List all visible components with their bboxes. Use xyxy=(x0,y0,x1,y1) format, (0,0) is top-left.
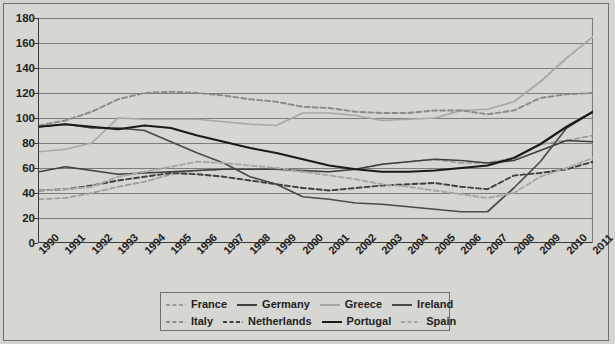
chart-legend: FranceGermanyGreeceIreland ItalyNetherla… xyxy=(160,292,450,331)
series-line-portugal xyxy=(39,112,593,172)
legend-swatch-france-icon xyxy=(165,300,187,309)
legend-swatch-germany-icon xyxy=(236,300,258,309)
legend-label-portugal: Portugal xyxy=(347,316,392,327)
legend-item-spain: Spain xyxy=(400,316,456,327)
legend-swatch-spain-icon xyxy=(400,317,422,326)
legend-swatch-netherlands-icon xyxy=(222,317,244,326)
legend-row-2: ItalyNetherlandsPortugalSpain xyxy=(165,313,445,330)
legend-label-netherlands: Netherlands xyxy=(248,316,312,327)
legend-label-italy: Italy xyxy=(191,316,213,327)
legend-swatch-italy-icon xyxy=(165,317,187,326)
legend-item-netherlands: Netherlands xyxy=(222,316,312,327)
legend-item-greece: Greece xyxy=(319,299,382,310)
legend-item-germany: Germany xyxy=(236,299,310,310)
legend-item-france: France xyxy=(165,299,227,310)
y-axis-labels: 020406080100120140160180 xyxy=(0,0,38,250)
series-line-germany xyxy=(39,141,593,175)
legend-label-germany: Germany xyxy=(262,299,310,310)
legend-item-portugal: Portugal xyxy=(321,316,392,327)
legend-label-greece: Greece xyxy=(345,299,382,310)
legend-item-italy: Italy xyxy=(165,316,213,327)
legend-swatch-ireland-icon xyxy=(391,300,413,309)
plot-area xyxy=(38,18,592,243)
legend-label-spain: Spain xyxy=(426,316,456,327)
legend-row-1: FranceGermanyGreeceIreland xyxy=(165,296,445,313)
series-line-italy xyxy=(39,92,593,126)
y-tick-mark-0 xyxy=(33,243,38,244)
legend-swatch-portugal-icon xyxy=(321,317,343,326)
chart-lines xyxy=(39,18,593,243)
legend-label-ireland: Ireland xyxy=(417,299,453,310)
legend-swatch-greece-icon xyxy=(319,300,341,309)
series-line-greece xyxy=(39,37,593,152)
legend-label-france: France xyxy=(191,299,227,310)
legend-item-ireland: Ireland xyxy=(391,299,453,310)
